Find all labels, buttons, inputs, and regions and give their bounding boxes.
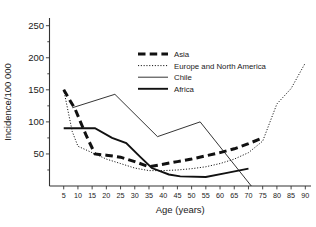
- y-axis-group: 50100150200250: [28, 18, 49, 186]
- legend-label: Asia: [174, 50, 190, 59]
- y-tick-label: 100: [28, 116, 44, 127]
- x-tick-label: 55: [202, 191, 210, 200]
- x-tick-label: 45: [173, 191, 181, 200]
- x-axis-group: 51015202530354045505560657075808590: [50, 186, 312, 200]
- y-axis-title: Incidence/100 000: [2, 63, 13, 141]
- y-tick-label: 200: [28, 52, 44, 63]
- x-tick-label: 50: [188, 191, 196, 200]
- x-tick-label: 90: [301, 191, 309, 200]
- incidence-by-age-chart: 50100150200250 5101520253035404550556065…: [0, 0, 316, 227]
- chart-legend: AsiaEurope and North AmericaChileAfrica: [138, 50, 267, 94]
- y-tick-label: 250: [28, 20, 44, 31]
- x-tick-label: 30: [131, 191, 139, 200]
- y-tick-labels: 50100150200250: [28, 20, 44, 159]
- x-tick-label: 5: [62, 191, 66, 200]
- x-axis-title: Age (years): [156, 204, 205, 215]
- x-tick-label: 15: [88, 191, 96, 200]
- x-tick-label: 85: [287, 191, 295, 200]
- x-tick-label: 60: [216, 191, 224, 200]
- legend-label: Chile: [174, 73, 192, 82]
- x-tick-label: 40: [159, 191, 167, 200]
- x-tick-label: 35: [145, 191, 153, 200]
- x-tick-label: 70: [244, 191, 252, 200]
- x-tick-label: 20: [102, 191, 110, 200]
- x-tick-label: 25: [117, 191, 125, 200]
- x-tick-label: 10: [74, 191, 82, 200]
- y-tick-label: 50: [33, 148, 44, 159]
- chart-svg: 50100150200250 5101520253035404550556065…: [0, 0, 316, 227]
- legend-label: Europe and North America: [174, 62, 267, 71]
- x-tick-label: 65: [230, 191, 238, 200]
- x-tick-label: 80: [273, 191, 281, 200]
- y-tick-label: 150: [28, 84, 44, 95]
- x-tick-label: 75: [259, 191, 267, 200]
- legend-label: Africa: [174, 85, 195, 94]
- x-tick-labels: 51015202530354045505560657075808590: [62, 191, 310, 200]
